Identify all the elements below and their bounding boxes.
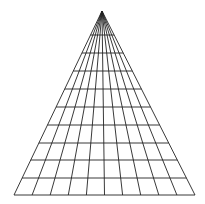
grid-ray <box>102 11 159 195</box>
grid-ray <box>102 11 105 195</box>
grid-ray <box>102 11 177 195</box>
grid-ray <box>32 11 102 195</box>
grid-ray <box>102 11 195 195</box>
perspective-grid-diagram <box>0 0 205 204</box>
grid-ray <box>102 11 123 195</box>
grid-ray <box>68 11 102 195</box>
grid-ray <box>102 11 141 195</box>
converging-lines <box>14 11 195 195</box>
